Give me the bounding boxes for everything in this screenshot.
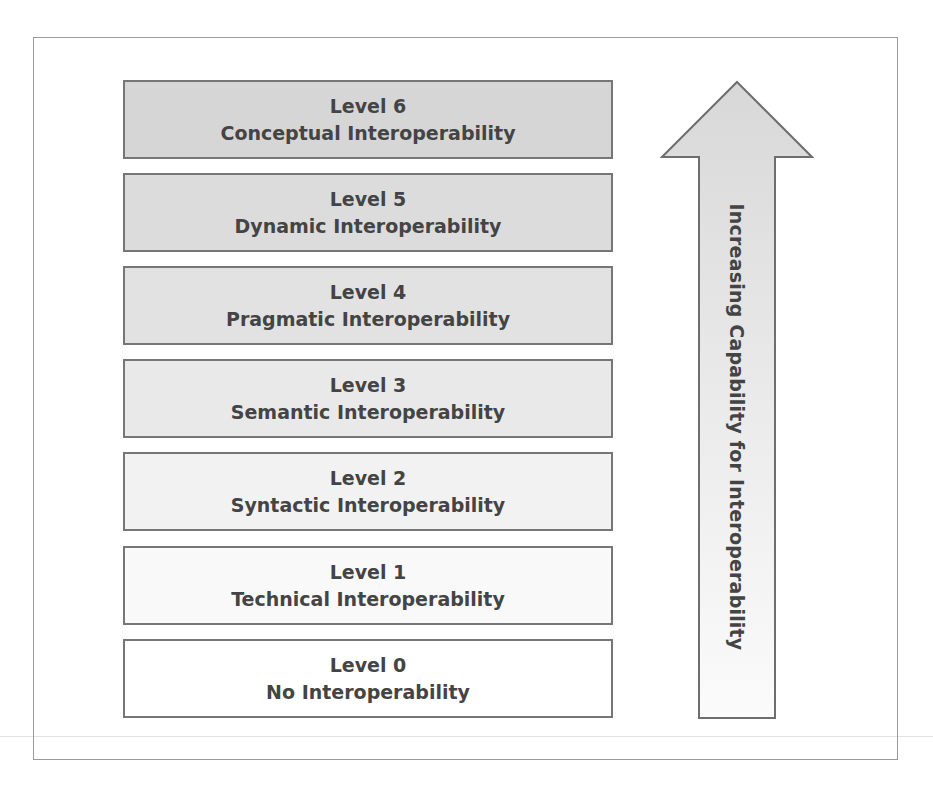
level-1-box: Level 1 Technical Interoperability — [123, 546, 613, 625]
level-0-box: Level 0 No Interoperability — [123, 639, 613, 718]
level-1-number: Level 1 — [330, 559, 407, 586]
level-3-name: Semantic Interoperability — [231, 399, 505, 426]
level-3-number: Level 3 — [330, 372, 407, 399]
level-0-number: Level 0 — [330, 652, 407, 679]
level-0-name: No Interoperability — [266, 679, 470, 706]
level-5-number: Level 5 — [330, 186, 407, 213]
level-6-box: Level 6 Conceptual Interoperability — [123, 80, 613, 159]
level-4-box: Level 4 Pragmatic Interoperability — [123, 266, 613, 345]
level-4-name: Pragmatic Interoperability — [226, 306, 510, 333]
level-5-box: Level 5 Dynamic Interoperability — [123, 173, 613, 252]
level-1-name: Technical Interoperability — [231, 586, 505, 613]
arrow-label: Increasing Capability for Interoperabili… — [726, 204, 748, 651]
level-2-box: Level 2 Syntactic Interoperability — [123, 452, 613, 531]
level-5-name: Dynamic Interoperability — [235, 213, 502, 240]
level-6-number: Level 6 — [330, 93, 407, 120]
level-3-box: Level 3 Semantic Interoperability — [123, 359, 613, 438]
level-6-name: Conceptual Interoperability — [220, 120, 515, 147]
level-2-name: Syntactic Interoperability — [231, 492, 506, 519]
level-4-number: Level 4 — [330, 279, 407, 306]
level-2-number: Level 2 — [330, 465, 407, 492]
